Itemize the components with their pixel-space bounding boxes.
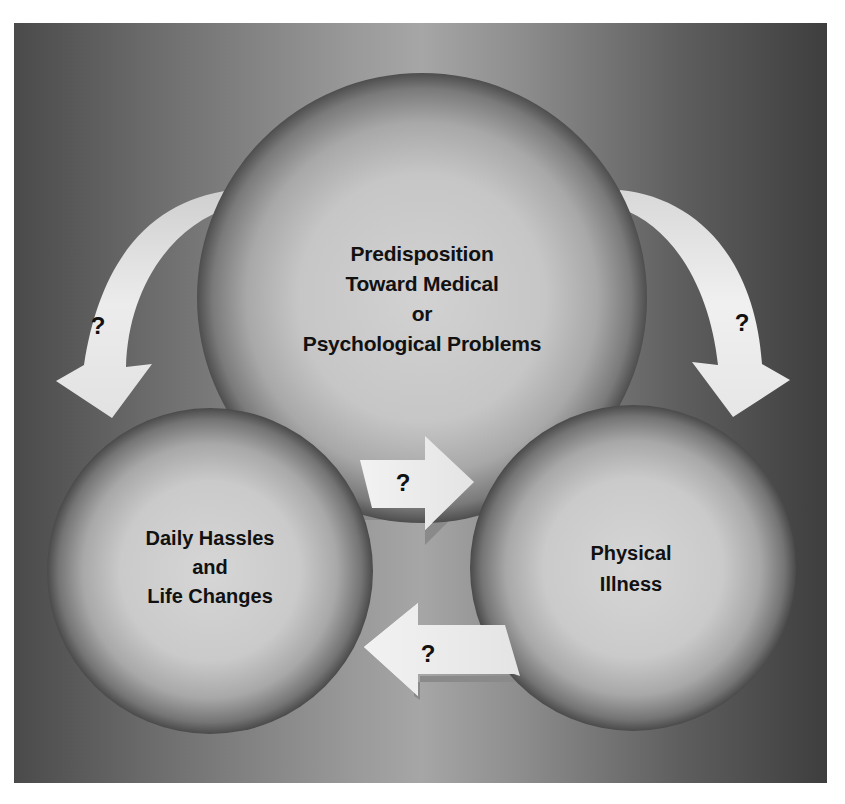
node-right-line-2: Illness (590, 569, 671, 600)
node-right-label: Physical Illness (590, 538, 671, 600)
arrow-right-to-left-shadow (414, 676, 520, 700)
node-top-line-2: Toward Medical (303, 269, 541, 299)
node-top-label: Predisposition Toward Medical or Psychol… (303, 239, 541, 359)
diagram-canvas (14, 23, 827, 783)
question-mark-right-to-left: ? (421, 640, 436, 668)
node-top-line-3: or (303, 299, 541, 329)
node-top-line-1: Predisposition (303, 239, 541, 269)
node-left-line-2: and (146, 553, 275, 582)
question-mark-top-to-right: ? (735, 309, 750, 337)
node-left-line-3: Life Changes (146, 582, 275, 611)
diagram-panel: Predisposition Toward Medical or Psychol… (14, 23, 827, 783)
node-top-line-4: Psychological Problems (303, 329, 541, 359)
question-mark-top-to-left: ? (91, 312, 106, 340)
node-left-label: Daily Hassles and Life Changes (146, 524, 275, 611)
node-right-line-1: Physical (590, 538, 671, 569)
question-mark-left-to-right: ? (396, 469, 411, 497)
node-left-line-1: Daily Hassles (146, 524, 275, 553)
